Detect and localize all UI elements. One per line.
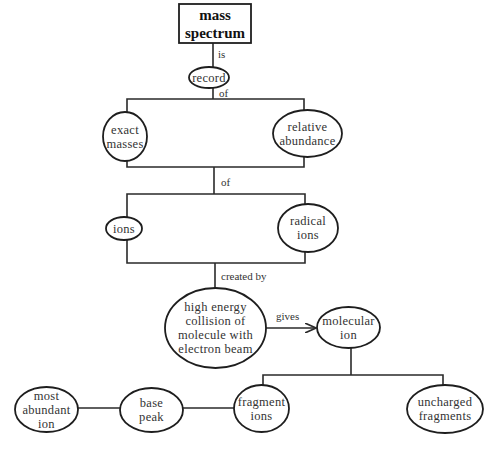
link-label-is: is <box>218 48 225 60</box>
node-fragment-ions: fragment ions <box>234 385 289 432</box>
node-exact-masses: exact masses <box>103 112 147 161</box>
node-relative-abundance: relative abundance <box>273 110 342 157</box>
node-molecular-ion: molecular ion <box>317 307 380 348</box>
concept-map: mass spectrum record exact masses relati… <box>0 0 495 452</box>
node-mass-spectrum: mass spectrum <box>179 4 251 43</box>
link-label-gives: gives <box>276 310 299 322</box>
node-radical-ions: radical ions <box>278 204 338 252</box>
node-collision: high energy collision of molecule with e… <box>165 288 266 368</box>
bracket-bottom-1 <box>127 157 304 167</box>
link-label-of-1: of <box>219 87 228 99</box>
node-uncharged-fragments: uncharged fragments <box>407 385 483 433</box>
link-label-of-2: of <box>221 176 230 188</box>
node-record: record <box>189 67 229 88</box>
bracket-top-3 <box>263 375 443 385</box>
node-most-abundant-ion: most abundant ion <box>15 387 78 432</box>
node-ions: ions <box>106 217 142 240</box>
node-base-peak: base peak <box>120 388 183 432</box>
link-label-created-by: created by <box>221 270 267 282</box>
